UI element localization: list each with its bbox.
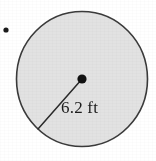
radius-measurement-label: 6.2 ft	[61, 98, 98, 118]
center-dot	[77, 74, 86, 83]
circle-diagram-svg	[0, 0, 156, 161]
corner-bullet-icon	[3, 27, 8, 32]
geometry-figure: 6.2 ft	[0, 0, 156, 161]
